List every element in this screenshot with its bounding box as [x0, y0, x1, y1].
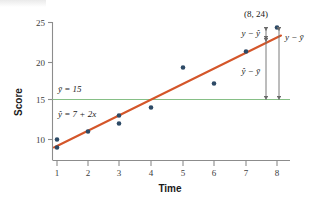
data-points-group — [55, 25, 280, 150]
x-tick-label-2: 2 — [86, 168, 91, 178]
regression-equation-label: ŷ = 7 + 2x — [57, 109, 96, 119]
data-point — [149, 105, 154, 110]
mean-equation-label: ȳ = 15 — [57, 84, 82, 94]
x-tick-label-6: 6 — [212, 168, 217, 178]
data-point — [55, 137, 60, 142]
y-axis-title: Score — [13, 88, 24, 116]
explained-deviation-label: ŷ − ȳ — [240, 66, 261, 76]
total-deviation-label: y − ȳ — [284, 32, 305, 42]
residual-label: y − ŷ — [240, 28, 260, 38]
point-coordinate-label: (8, 24) — [244, 9, 268, 19]
chart-screenshot: 25 20 15 10 Score 1 2 3 4 5 — [0, 0, 319, 197]
x-tick-label-1: 1 — [55, 168, 60, 178]
x-tick-label-3: 3 — [117, 168, 122, 178]
data-point — [212, 81, 217, 86]
x-axis: 1 2 3 4 5 6 7 8 Time — [53, 161, 291, 195]
y-tick-label-20: 20 — [36, 58, 46, 68]
data-point — [55, 145, 60, 150]
x-axis-title: Time — [158, 183, 182, 194]
data-point — [244, 49, 249, 54]
scatter-plot-figure: 25 20 15 10 Score 1 2 3 4 5 — [0, 0, 319, 197]
y-tick-label-15: 15 — [36, 95, 46, 105]
data-point — [86, 129, 91, 134]
data-point — [117, 121, 122, 126]
data-point — [117, 113, 122, 118]
data-point — [181, 65, 186, 70]
y-tick-label-10: 10 — [36, 135, 46, 145]
y-axis: 25 20 15 10 Score — [13, 18, 53, 161]
x-tick-label-5: 5 — [181, 168, 186, 178]
x-tick-label-8: 8 — [275, 168, 280, 178]
x-tick-label-4: 4 — [149, 168, 154, 178]
y-tick-label-25: 25 — [36, 18, 46, 28]
plot-svg: 25 20 15 10 Score 1 2 3 4 5 — [0, 0, 319, 197]
x-tick-label-7: 7 — [244, 168, 249, 178]
